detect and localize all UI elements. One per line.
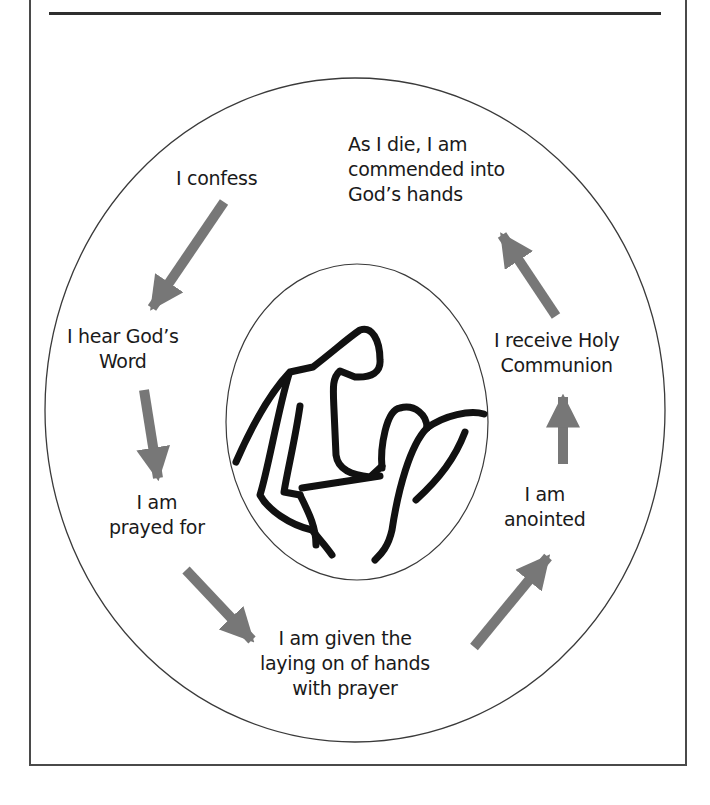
step-commended: As I die, I am commended into God’s hand… [348,132,505,207]
arrow-prayed-to-laying [186,570,252,640]
step-text: I hear God’s [67,324,179,349]
step-text: As I die, I am [348,132,505,157]
step-text: anointed [504,507,585,532]
step-text: I am [109,490,205,515]
step-text: God’s hands [348,182,505,207]
step-text: Communion [494,353,619,378]
step-anointed: I am anointed [504,482,585,532]
step-text: commended into [348,157,505,182]
step-text: with prayer [260,676,430,701]
arrow-laying-to-anointed [474,557,548,647]
step-text: Word [67,349,179,374]
step-hear-word: I hear God’s Word [67,324,179,374]
step-laying-on-hands: I am given the laying on of hands with p… [260,626,430,701]
step-text: laying on of hands [260,651,430,676]
inner-circle [226,264,488,580]
step-text: I am given the [260,626,430,651]
step-prayed-for: I am prayed for [109,490,205,540]
step-text: prayed for [109,515,205,540]
step-text: I receive Holy [494,328,619,353]
arrow-communion-to-commended [502,235,556,316]
caregiver-illustration-icon [236,329,484,560]
step-confess: I confess [176,166,257,191]
step-text: I am [504,482,585,507]
step-text: I confess [176,166,257,191]
arrow-confess-to-hear [152,202,224,308]
arrow-hear-to-prayed [144,390,158,478]
step-holy-communion: I receive Holy Communion [494,328,619,378]
